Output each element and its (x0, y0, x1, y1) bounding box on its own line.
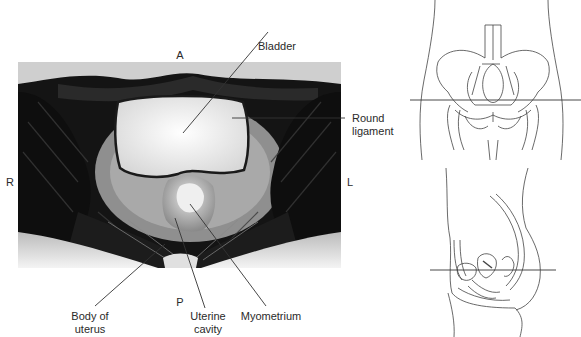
label-uterine-cavity-line2: cavity (186, 323, 230, 336)
orientation-posterior: P (174, 296, 186, 309)
body-outline-right (548, 0, 563, 160)
label-body-of-uterus-line1: Body of (60, 310, 120, 323)
label-uterine-cavity-line1: Uterine (186, 310, 230, 323)
label-body-of-uterus-line2: uterus (60, 323, 120, 336)
label-bladder: Bladder (252, 40, 302, 53)
label-round-ligament-line2: ligament (352, 125, 412, 138)
orientation-left: L (344, 176, 356, 189)
mri-rendering (18, 62, 341, 268)
label-body-of-uterus: Body of uterus (60, 310, 120, 336)
body-outline-front (446, 168, 522, 337)
mri-axial-image (18, 62, 341, 268)
sagittal-pelvis-diagram (410, 168, 581, 337)
orientation-anterior: A (174, 49, 186, 62)
frontal-pelvis-diagram (410, 0, 581, 165)
body-outline-left (420, 0, 435, 160)
label-round-ligament: Round ligament (352, 112, 412, 138)
label-round-ligament-line1: Round (352, 112, 412, 125)
orientation-right: R (4, 176, 16, 189)
label-uterine-cavity: Uterine cavity (186, 310, 230, 336)
label-myometrium: Myometrium (238, 310, 304, 323)
